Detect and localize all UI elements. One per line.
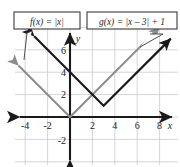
y-tick-6: 6 [61, 45, 66, 56]
x-tick-4: 4 [112, 120, 117, 131]
g-callout-box: g(x) = |x – 3| + 1 [87, 12, 177, 29]
grid-background [15, 26, 178, 165]
y-tick--2: -2 [58, 135, 66, 146]
f-callout-label: f(x) = |x| [30, 17, 64, 28]
x-tick--2: -2 [43, 120, 51, 131]
x-tick-2: 2 [90, 120, 95, 131]
g-callout-label: g(x) = |x – 3| + 1 [99, 17, 165, 28]
y-tick-2: 2 [61, 89, 66, 100]
x-tick-6: 6 [135, 120, 140, 131]
coordinate-plane: -4 -2 2 4 6 8 6 4 2 -2 x y f(x) = |x| g(… [0, 0, 180, 167]
graph-figure: -4 -2 2 4 6 8 6 4 2 -2 x y f(x) = |x| g(… [0, 0, 180, 167]
y-axis-label: y [75, 33, 81, 44]
x-tick--4: -4 [21, 120, 29, 131]
x-axis-label: x [167, 120, 173, 131]
y-tick-4: 4 [61, 67, 66, 78]
f-callout-box: f(x) = |x| [14, 12, 80, 29]
x-tick-8: 8 [157, 120, 162, 131]
